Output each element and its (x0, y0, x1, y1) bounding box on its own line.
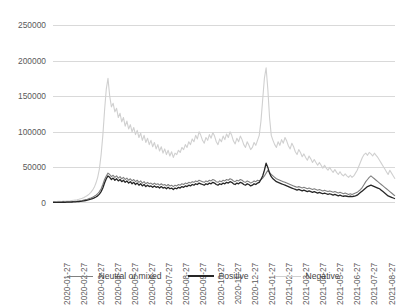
x-axis-tick-label: 2020-07-27 (166, 263, 174, 305)
legend-label: Positive (219, 272, 249, 281)
y-axis-tick-label: 150000 (18, 92, 46, 100)
x-axis-labels: 2020-01-272020-02-272020-03-272020-04-27… (53, 205, 395, 267)
series-lines (53, 25, 395, 203)
x-axis-tick-label: 2021-01-27 (269, 263, 277, 305)
x-axis-tick-label: 2021-04-27 (320, 263, 328, 305)
x-axis-tick-label: 2020-04-27 (115, 263, 123, 305)
legend-swatch-line-icon (275, 276, 301, 277)
legend-label: Negative (306, 272, 340, 281)
x-axis-tick-label: 2021-03-27 (303, 263, 311, 305)
legend-swatch-line-icon (67, 276, 93, 277)
x-axis-tick-label: 2021-08-27 (389, 263, 397, 305)
chart-legend: Neutral or mixedPositiveNegative (0, 272, 407, 281)
y-axis-tick-label: 200000 (18, 56, 46, 64)
series-line (53, 163, 395, 202)
x-axis-tick-label: 2020-11-27 (235, 263, 243, 304)
x-axis-tick-label: 2020-03-27 (98, 263, 106, 305)
x-axis-tick-label: 2021-05-27 (337, 263, 345, 305)
y-axis-tick-label: 50000 (23, 163, 46, 171)
x-axis-tick-label: 2020-09-27 (200, 263, 208, 305)
legend-item[interactable]: Neutral or mixed (67, 272, 161, 281)
x-axis-tick-label: 2020-10-27 (218, 263, 226, 305)
x-axis-tick-label: 2021-06-27 (354, 263, 362, 305)
x-axis-tick-label: 2020-02-27 (81, 263, 89, 305)
x-axis-tick-label: 2020-08-27 (183, 263, 191, 305)
x-axis-tick-label: 2021-07-27 (371, 263, 379, 305)
x-axis-tick-label: 2021-02-27 (286, 263, 294, 305)
legend-label: Neutral or mixed (98, 272, 161, 281)
x-axis-tick-label: 2020-06-27 (149, 263, 157, 305)
plot-area (53, 25, 395, 203)
legend-item[interactable]: Positive (188, 272, 249, 281)
x-axis-tick-label: 2020-12-27 (252, 263, 260, 305)
legend-item[interactable]: Negative (275, 272, 340, 281)
y-axis-labels: 050000100000150000200000250000 (0, 0, 50, 300)
x-axis-tick-label: 2020-05-27 (132, 263, 140, 305)
y-axis-tick-label: 250000 (18, 21, 46, 29)
x-axis-tick-label: 2020-01-27 (64, 263, 72, 305)
legend-swatch-line-icon (188, 275, 214, 277)
y-axis-tick-label: 100000 (18, 128, 46, 136)
y-axis-tick-label: 0 (41, 199, 46, 207)
